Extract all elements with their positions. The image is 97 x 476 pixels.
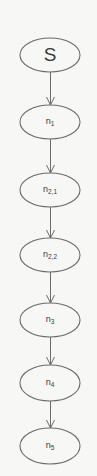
node-label-subscript: 4 (51, 381, 55, 388)
node-label-n3: n3 (19, 315, 81, 326)
node-label-subscript: 1 (51, 120, 55, 127)
node-label-S: S (19, 45, 81, 64)
arrow-n2_2-to-n3 (47, 272, 55, 303)
arrow-S-to-n1 (47, 72, 55, 105)
node-label-base: S (44, 44, 57, 65)
node-label-n1: n1 (19, 117, 81, 128)
node-label-n4: n4 (19, 378, 81, 389)
node-label-n2-1: n2,1 (19, 185, 81, 196)
node-label-n5: n5 (19, 441, 81, 452)
arrow-n4-to-n5 (47, 401, 55, 428)
arrow-n2_1-to-n2_2 (47, 207, 55, 238)
arrow-n3-to-n4 (47, 337, 55, 365)
node-label-subscript: 2,1 (48, 188, 57, 195)
diagram-canvas (0, 0, 97, 476)
arrow-n1-to-n2_1 (47, 139, 55, 173)
node-label-subscript: 3 (51, 318, 55, 325)
flowchart-diagram: S n1 n2,1 n2,2 n3 n4 n5 (0, 0, 97, 476)
node-label-subscript: 2,2 (48, 253, 57, 260)
node-label-subscript: 5 (51, 444, 55, 451)
node-label-n2-2: n2,2 (19, 250, 81, 261)
